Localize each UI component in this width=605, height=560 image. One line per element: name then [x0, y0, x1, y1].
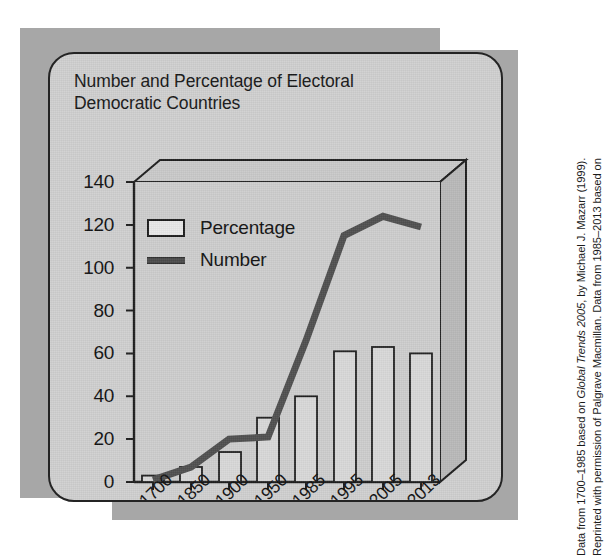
y-tick-label-40: 40: [68, 385, 114, 407]
legend-label-number: Number: [200, 249, 266, 271]
figure-page: Number and Percentage of Electoral Democ…: [0, 0, 605, 560]
bar-swatch-icon: [147, 219, 185, 237]
y-tick-label-0: 0: [68, 471, 114, 493]
figure-backplate-notch-top-right: [440, 28, 518, 50]
legend-item-number: Number: [147, 244, 295, 276]
chart-box-top-face: [134, 160, 466, 182]
caption-line-1-post: , by Michael J. Mazarr (1999).: [575, 158, 587, 303]
chart-svg: [50, 54, 503, 502]
bar-2013: [410, 353, 432, 482]
chart-legend: Percentage Number: [147, 212, 295, 276]
figure-card: Number and Percentage of Electoral Democ…: [48, 52, 503, 502]
legend-label-percentage: Percentage: [200, 217, 295, 239]
legend-item-percentage: Percentage: [147, 212, 295, 244]
caption-line-1-italic: Global Trends 2005: [575, 303, 587, 399]
bar-2005: [372, 347, 394, 482]
y-tick-label-100: 100: [68, 257, 114, 279]
caption-line-1: Data from 1700–1985 based on Global Tren…: [575, 158, 587, 556]
figure-source-caption: Data from 1700–1985 based on Global Tren…: [557, 0, 603, 560]
caption-line-2: Reprinted with permission of Palgrave Ma…: [591, 158, 603, 556]
y-tick-label-60: 60: [68, 342, 114, 364]
chart-plot-area: 140 120 100 80 60 40 20 0 1700 1850 1900…: [50, 54, 503, 502]
y-tick-label-80: 80: [68, 300, 114, 322]
y-tick-label-120: 120: [68, 214, 114, 236]
y-tick-label-140: 140: [68, 171, 114, 193]
y-tick-label-20: 20: [68, 428, 114, 450]
caption-line-1-pre: Data from 1700–1985 based on: [575, 398, 587, 556]
line-swatch-icon: [147, 257, 185, 264]
chart-box-right-face: [440, 160, 466, 482]
bar-1985: [295, 396, 317, 482]
bar-1995: [334, 351, 356, 482]
